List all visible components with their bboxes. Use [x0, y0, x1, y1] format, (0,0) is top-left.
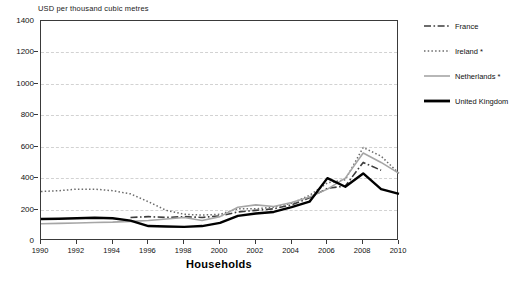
y-axis-tick-label: 1400 — [16, 16, 34, 25]
y-axis-tick-label: 200 — [21, 204, 34, 213]
legend-swatch-icon — [424, 71, 450, 81]
legend-swatch-icon — [424, 21, 450, 31]
y-axis-tick — [34, 209, 38, 210]
y-axis-tick-label: 600 — [21, 141, 34, 150]
series-line-3 — [41, 173, 399, 226]
y-axis-unit-label: USD per thousand cubic metres — [38, 4, 149, 13]
y-axis-tick — [34, 114, 38, 115]
y-axis-tick — [34, 146, 38, 147]
legend-label: France — [455, 22, 478, 31]
series-line-0 — [131, 162, 382, 217]
y-axis-tick-label: 400 — [21, 173, 34, 182]
x-axis-tick-label: 2002 — [246, 246, 263, 255]
y-axis-tick — [34, 83, 38, 84]
x-axis-tick-label: 1990 — [32, 246, 49, 255]
x-axis-tick — [362, 240, 363, 244]
legend-label: United Kingdom — [455, 97, 508, 106]
x-axis-title: Households — [40, 258, 398, 270]
x-axis-tick-label: 2008 — [354, 246, 371, 255]
x-axis-tick — [76, 240, 77, 244]
x-axis-tick-label: 2006 — [318, 246, 335, 255]
x-axis-tick — [326, 240, 327, 244]
x-axis-tick-label: 2004 — [282, 246, 299, 255]
legend-swatch-icon — [424, 96, 450, 106]
x-axis-tick-label: 2000 — [211, 246, 228, 255]
legend-item-3[interactable]: United Kingdom — [424, 95, 508, 107]
legend-swatch-icon — [424, 46, 450, 56]
x-axis-tick — [147, 240, 148, 244]
x-axis-tick — [112, 240, 113, 244]
x-axis-tick-label: 2010 — [390, 246, 407, 255]
x-axis-tick-label: 1996 — [139, 246, 156, 255]
series-line-1 — [41, 148, 399, 216]
x-axis-tick-label: 1998 — [175, 246, 192, 255]
x-axis-ticks: 1990199219941996199820002002200420062008… — [40, 240, 398, 246]
series-line-2 — [41, 153, 399, 224]
x-axis-tick — [255, 240, 256, 244]
series-layer — [41, 21, 399, 241]
x-axis-tick — [398, 240, 399, 244]
plot-inner — [41, 21, 397, 239]
x-axis-tick-label: 1994 — [103, 246, 120, 255]
legend-label: Netherlands * — [455, 72, 500, 81]
y-axis-tick — [34, 177, 38, 178]
y-axis-labels: 0200400600800100012001400 — [0, 20, 34, 240]
plot-area — [40, 20, 398, 240]
y-axis-tick-label: 0 — [30, 236, 34, 245]
legend-item-2[interactable]: Netherlands * — [424, 70, 500, 82]
x-axis-tick-label: 1992 — [67, 246, 84, 255]
legend-label: Ireland * — [455, 47, 483, 56]
x-axis-tick — [40, 240, 41, 244]
x-axis-tick — [219, 240, 220, 244]
legend-item-1[interactable]: Ireland * — [424, 45, 483, 57]
y-axis-tick-label: 1200 — [16, 47, 34, 56]
x-axis-tick — [183, 240, 184, 244]
x-axis-tick — [291, 240, 292, 244]
chart-root: USD per thousand cubic metres 0200400600… — [0, 0, 513, 286]
y-axis-tick-label: 1000 — [16, 78, 34, 87]
y-axis-tick-label: 800 — [21, 110, 34, 119]
y-axis-tick — [34, 51, 38, 52]
legend-item-0[interactable]: France — [424, 20, 478, 32]
